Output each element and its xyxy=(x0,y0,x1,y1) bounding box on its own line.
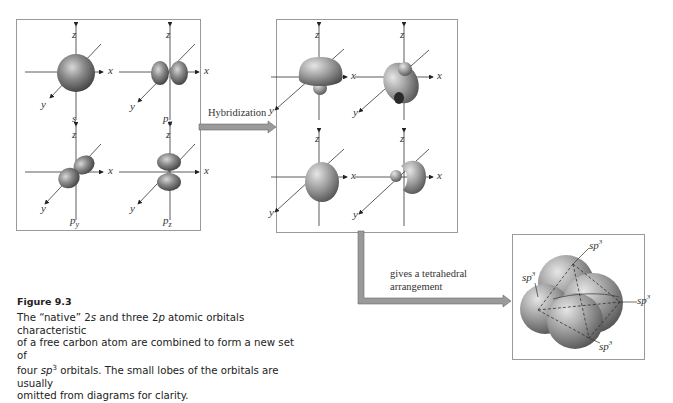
caption-line-4: omitted from diagrams for clarity. xyxy=(17,390,302,403)
x-axis-label: x xyxy=(351,169,356,181)
x-axis-label: x xyxy=(437,69,442,81)
s-orbital-cell: x z y s xyxy=(17,20,117,130)
atomic-orbitals-panel: x z y s x z y px x z y py xyxy=(16,19,201,231)
tetrahedral-label-line2: arrangement xyxy=(390,281,442,292)
sp3-label-left: sp3 xyxy=(522,270,535,283)
sp3-orbital-icon xyxy=(277,120,377,230)
hybrid-orbitals-panel: x z y x z y x z y xyxy=(276,19,458,233)
sp3-orbital-icon xyxy=(277,20,377,130)
sp3-orbital-icon xyxy=(363,120,463,230)
z-axis-label: z xyxy=(72,128,76,140)
z-axis-label: z xyxy=(72,28,76,40)
s-orbital-icon xyxy=(17,20,117,130)
caption-line-2: of a free carbon atom are combined to fo… xyxy=(17,337,302,362)
y-axis-label: y xyxy=(353,106,358,118)
y-axis-label: y xyxy=(130,202,135,214)
orbital-label-pz: pz xyxy=(163,214,172,229)
x-axis-label: x xyxy=(437,169,442,181)
z-axis-label: z xyxy=(400,132,404,144)
hybridization-label: Hybridization xyxy=(208,107,266,118)
sp3-orbital-cell-3: x z y xyxy=(277,120,377,230)
sp3-orbital-cell-4: x z y xyxy=(363,120,463,230)
y-axis-label: y xyxy=(130,100,135,112)
sp3-orbital-cell-2: x z y xyxy=(363,20,463,130)
y-axis-label: y xyxy=(269,104,274,116)
sp3-orbital-cell-1: x z y xyxy=(277,20,377,130)
sp3-label-top: sp3 xyxy=(589,238,602,251)
z-axis-label: z xyxy=(315,132,319,144)
caption-line-1: The “native” 2s and three 2p atomic orbi… xyxy=(17,312,302,337)
z-axis-label: z xyxy=(315,28,319,40)
z-axis-label: z xyxy=(400,28,404,40)
caption-line-3: four sp3 orbitals. The small lobes of th… xyxy=(17,362,302,390)
x-axis-label: x xyxy=(351,69,356,81)
figure-caption: The “native” 2s and three 2p atomic orbi… xyxy=(17,312,302,403)
orbital-label-py: py xyxy=(70,214,79,229)
pz-orbital-cell: x z y pz xyxy=(113,120,213,230)
hybridization-arrow xyxy=(199,120,279,134)
py-orbital-cell: x z y py xyxy=(17,120,117,230)
tetrahedral-orbitals-icon xyxy=(513,235,644,359)
z-axis-label: z xyxy=(166,128,170,140)
px-orbital-cell: x z y px xyxy=(113,20,213,130)
tetrahedral-panel: sp3 sp3 sp3 sp3 xyxy=(512,234,645,360)
y-axis-label: y xyxy=(353,208,358,220)
z-axis-label: z xyxy=(166,28,170,40)
y-axis-label: y xyxy=(41,98,46,110)
sp3-orbital-icon xyxy=(363,20,463,130)
figure-title: Figure 9.3 xyxy=(17,296,72,307)
py-orbital-icon xyxy=(17,120,117,230)
sp3-label-bottom: sp3 xyxy=(599,339,612,352)
y-axis-label: y xyxy=(41,202,46,214)
x-axis-label: x xyxy=(204,164,209,176)
tetrahedral-label-line1: gives a tetrahedral xyxy=(390,268,467,279)
sp3-label-right: sp3 xyxy=(637,293,650,306)
x-axis-label: x xyxy=(204,64,209,76)
y-axis-label: y xyxy=(269,206,274,218)
